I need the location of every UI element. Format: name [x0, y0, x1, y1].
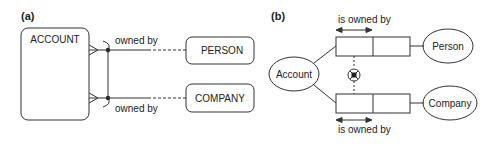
bottom-uniqueness-arrow-icon — [336, 118, 372, 123]
company-object-label: Company — [429, 98, 472, 109]
account-to-top-role-line — [314, 46, 336, 63]
person-object-label: Person — [432, 41, 464, 52]
relationship-label-top: owned by — [115, 35, 158, 46]
top-role-label: is owned by — [338, 14, 391, 25]
account-object-label: Account — [276, 69, 312, 80]
company-entity-label: COMPANY — [195, 93, 245, 104]
panel-b: (b) Account is owned by is owned by — [269, 10, 477, 135]
account-to-bottom-role-line — [314, 85, 336, 103]
crows-foot-top-icon — [89, 45, 98, 55]
crows-foot-bottom-icon — [89, 93, 98, 103]
person-entity-label: PERSON — [201, 45, 243, 56]
top-uniqueness-arrow-icon — [336, 28, 372, 33]
account-entity-label: ACCOUNT — [30, 34, 79, 45]
exclusion-constraint-icon — [348, 69, 360, 81]
panel-a: (a) ACCOUNT owned by owned by PERSON — [21, 10, 254, 120]
relationship-label-bottom: owned by — [115, 103, 158, 114]
bottom-role-label: is owned by — [338, 124, 391, 135]
panel-b-label: (b) — [271, 10, 285, 22]
diagram-canvas: (a) ACCOUNT owned by owned by PERSON — [0, 0, 500, 148]
panel-a-label: (a) — [21, 10, 35, 22]
